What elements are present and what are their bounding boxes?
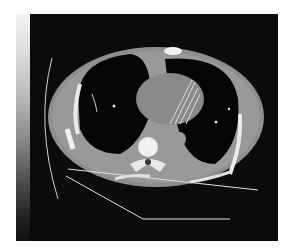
sternum [164, 47, 182, 55]
vertebra [138, 137, 158, 157]
heart [136, 73, 204, 125]
ct-scan-illustration [30, 14, 278, 241]
grayscale-ramp [16, 14, 30, 241]
ct-image-panel [30, 14, 278, 241]
